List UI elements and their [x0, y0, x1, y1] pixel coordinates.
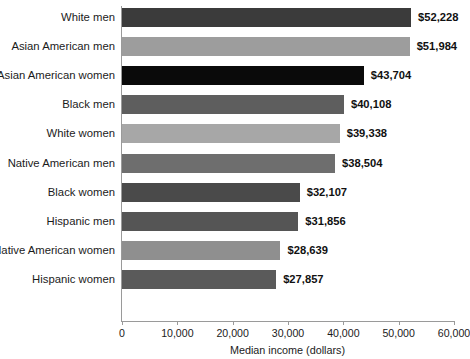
category-label: Hispanic men — [47, 212, 115, 231]
bar — [122, 241, 280, 260]
x-tick — [177, 321, 178, 325]
x-tick-label: 50,000 — [382, 327, 414, 339]
x-tick-label: 10,000 — [161, 327, 193, 339]
bar-value-label: $27,857 — [283, 270, 323, 289]
bar — [122, 66, 364, 85]
bar-value-label: $39,338 — [347, 124, 387, 143]
bar-row: Hispanic women$27,857 — [0, 270, 469, 299]
bar-value-label: $28,639 — [287, 241, 327, 260]
bar-value-label: $38,504 — [342, 154, 382, 173]
category-label: White men — [61, 8, 115, 27]
bar-row: White men$52,228 — [0, 8, 469, 37]
bar-row: Black women$32,107 — [0, 183, 469, 212]
x-tick-label: 40,000 — [327, 327, 359, 339]
bar — [122, 8, 411, 27]
bar — [122, 95, 344, 114]
bar-row: Black men$40,108 — [0, 95, 469, 124]
category-label: Native American women — [0, 241, 115, 260]
x-tick — [122, 321, 123, 325]
bar-value-label: $52,228 — [418, 8, 458, 27]
bar-value-label: $43,704 — [371, 66, 411, 85]
bar — [122, 124, 340, 143]
x-tick — [454, 321, 455, 325]
x-tick — [399, 321, 400, 325]
bar-row: White women$39,338 — [0, 124, 469, 153]
bar — [122, 37, 410, 56]
bar-value-label: $32,107 — [307, 183, 347, 202]
category-label: White women — [47, 124, 115, 143]
x-tick-label: 20,000 — [216, 327, 248, 339]
bar-row: Asian American women$43,704 — [0, 66, 469, 95]
category-label: Native American men — [8, 154, 115, 173]
bar-row: Hispanic men$31,856 — [0, 212, 469, 241]
bar — [122, 270, 276, 289]
category-label: Black women — [48, 183, 115, 202]
bar — [122, 212, 298, 231]
bar-row: Native American men$38,504 — [0, 154, 469, 183]
bar-value-label: $40,108 — [351, 95, 391, 114]
category-label: Asian American men — [11, 37, 115, 56]
x-tick-label: 30,000 — [272, 327, 304, 339]
category-label: Black men — [62, 95, 115, 114]
x-tick — [288, 321, 289, 325]
x-tick — [233, 321, 234, 325]
x-tick — [343, 321, 344, 325]
bar — [122, 183, 300, 202]
bar-value-label: $31,856 — [305, 212, 345, 231]
bar-row: Asian American men$51,984 — [0, 37, 469, 66]
category-label: Asian American women — [0, 66, 115, 85]
bar-row: Native American women$28,639 — [0, 241, 469, 270]
bar — [122, 154, 335, 173]
bar-value-label: $51,984 — [417, 37, 457, 56]
x-axis-title: Median income (dollars) — [121, 344, 454, 356]
x-tick-label: 0 — [119, 327, 125, 339]
x-tick-label: 60,000 — [438, 327, 470, 339]
category-label: Hispanic women — [32, 270, 115, 289]
